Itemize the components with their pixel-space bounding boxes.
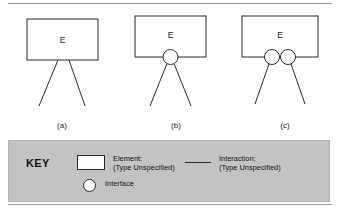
legend-element-line2: (Type Unspecified) bbox=[113, 163, 175, 172]
top-rule bbox=[8, 3, 332, 4]
diagram-a-label: (a) bbox=[10, 121, 114, 130]
key-legend-panel: KEY Element; (Type Unspecified) Interact… bbox=[8, 140, 330, 202]
diagram-b: E (b) bbox=[122, 8, 226, 132]
legend-swatch-interaction bbox=[185, 154, 219, 170]
legend-interaction-line1: Interaction; bbox=[219, 154, 281, 163]
diagram-a: E (a) bbox=[14, 8, 118, 132]
interface-circle-c-1 bbox=[265, 50, 280, 65]
circle-icon bbox=[83, 179, 96, 192]
figure-container: E (a) E (b) E bbox=[0, 0, 343, 213]
diagram-c: E (c) bbox=[228, 8, 338, 132]
interaction-line-c-2 bbox=[291, 64, 305, 104]
legend-entry-interaction: Interaction; (Type Unspecified) bbox=[185, 154, 281, 172]
key-title: KEY bbox=[26, 157, 50, 169]
legend-entry-interface: Interface bbox=[77, 179, 134, 192]
diagram-c-graphic: E bbox=[228, 8, 338, 114]
element-label-c: E bbox=[277, 30, 283, 40]
legend-interface-line1: Interface bbox=[105, 179, 134, 188]
line-icon bbox=[185, 155, 211, 170]
rectangle-icon bbox=[77, 155, 105, 170]
diagram-b-graphic: E bbox=[122, 8, 226, 114]
diagram-a-graphic: E bbox=[14, 8, 118, 114]
interaction-line-b-2 bbox=[174, 64, 191, 107]
diagram-b-label: (b) bbox=[124, 121, 228, 130]
diagram-c-label: (c) bbox=[230, 121, 340, 130]
legend-interaction-line2: (Type Unspecified) bbox=[219, 163, 281, 172]
legend-text-element: Element; (Type Unspecified) bbox=[113, 154, 175, 172]
legend-text-interface: Interface bbox=[105, 179, 134, 188]
interaction-line-a-2 bbox=[69, 60, 85, 106]
interaction-line-c-1 bbox=[255, 64, 269, 104]
interaction-line-b-1 bbox=[150, 64, 167, 107]
legend-element-line1: Element; bbox=[113, 154, 175, 163]
interface-circle-c-2 bbox=[281, 50, 296, 65]
element-label-a: E bbox=[60, 35, 66, 45]
legend-swatch-element bbox=[77, 154, 113, 170]
legend-text-interaction: Interaction; (Type Unspecified) bbox=[219, 154, 281, 172]
interaction-line-a-1 bbox=[39, 60, 58, 106]
diagrams-row: E (a) E (b) E bbox=[0, 8, 343, 132]
bottom-rule bbox=[8, 204, 332, 205]
legend-swatch-interface bbox=[77, 179, 105, 192]
legend-entry-element: Element; (Type Unspecified) bbox=[77, 154, 175, 172]
interface-circle-b-1 bbox=[163, 50, 178, 65]
element-label-b: E bbox=[168, 30, 174, 40]
